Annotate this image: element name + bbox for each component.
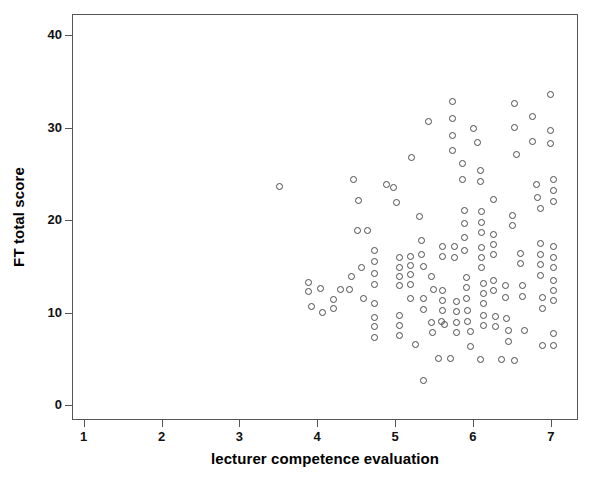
y-tick-label-0: 0 — [30, 397, 62, 412]
data-point — [319, 309, 326, 316]
data-point — [420, 306, 427, 313]
data-point — [317, 285, 324, 292]
data-point — [550, 342, 557, 349]
data-point — [502, 282, 509, 289]
data-point — [449, 147, 456, 154]
data-point — [461, 247, 468, 254]
data-point — [407, 253, 414, 260]
data-point — [412, 341, 419, 348]
data-point — [464, 318, 471, 325]
data-point — [550, 187, 557, 194]
x-tick-label-3: 3 — [227, 429, 251, 444]
data-point — [505, 327, 512, 334]
data-point — [346, 286, 353, 293]
data-point — [539, 342, 546, 349]
data-point — [478, 254, 485, 261]
data-point — [451, 254, 458, 261]
data-point — [350, 176, 357, 183]
data-point — [539, 294, 546, 301]
data-point — [420, 263, 427, 270]
data-point — [447, 355, 454, 362]
data-point — [470, 125, 477, 132]
data-point — [478, 244, 485, 251]
data-point — [467, 328, 474, 335]
data-point — [371, 247, 378, 254]
y-tick-20 — [65, 220, 72, 221]
data-point — [439, 297, 446, 304]
data-point — [459, 176, 466, 183]
data-point — [478, 208, 485, 215]
data-point — [547, 91, 554, 98]
data-point — [537, 251, 544, 258]
data-point — [348, 273, 355, 280]
data-point — [463, 284, 470, 291]
data-point — [435, 355, 442, 362]
data-point — [480, 312, 487, 319]
x-tick-2 — [162, 420, 163, 427]
data-point — [478, 219, 485, 226]
plot-area — [72, 14, 578, 420]
data-point — [463, 295, 470, 302]
data-point — [441, 321, 448, 328]
data-point — [416, 213, 423, 220]
data-point — [478, 264, 485, 271]
data-point — [511, 100, 518, 107]
x-tick-6 — [473, 420, 474, 427]
data-point — [430, 286, 437, 293]
data-point — [396, 264, 403, 271]
scatter-plot-figure: FT total score 010203040 1234567 lecture… — [0, 0, 592, 481]
data-point — [354, 227, 361, 234]
data-point — [407, 295, 414, 302]
y-tick-30 — [65, 128, 72, 129]
data-point — [393, 199, 400, 206]
data-point — [358, 264, 365, 271]
data-point — [533, 181, 540, 188]
data-point — [371, 300, 378, 307]
data-point — [420, 295, 427, 302]
x-tick-5 — [395, 420, 396, 427]
data-point — [396, 282, 403, 289]
data-point — [453, 319, 460, 326]
data-point — [474, 139, 481, 146]
data-point — [537, 261, 544, 268]
x-tick-1 — [84, 420, 85, 427]
data-point — [480, 322, 487, 329]
data-point — [463, 274, 470, 281]
data-point — [509, 212, 516, 219]
y-tick-label-10: 10 — [30, 305, 62, 320]
data-point — [371, 314, 378, 321]
data-point — [529, 138, 536, 145]
data-point — [459, 160, 466, 167]
data-point — [550, 330, 557, 337]
data-point — [467, 343, 474, 350]
data-point — [407, 262, 414, 269]
data-point — [478, 229, 485, 236]
data-point — [550, 176, 557, 183]
x-tick-label-6: 6 — [461, 429, 485, 444]
x-tick-7 — [551, 420, 552, 427]
y-axis-title: FT total score — [8, 14, 30, 420]
data-point — [461, 207, 468, 214]
data-point — [539, 305, 546, 312]
data-point — [550, 264, 557, 271]
data-point — [418, 237, 425, 244]
data-point — [451, 243, 458, 250]
data-point — [371, 323, 378, 330]
data-point — [509, 222, 516, 229]
data-point — [477, 167, 484, 174]
data-point — [490, 287, 497, 294]
data-point — [480, 300, 487, 307]
data-point — [439, 307, 446, 314]
data-point — [330, 296, 337, 303]
data-point — [305, 279, 312, 286]
data-point — [308, 303, 315, 310]
data-point — [383, 181, 390, 188]
y-tick-10 — [65, 313, 72, 314]
data-point — [461, 234, 468, 241]
data-point — [305, 288, 312, 295]
data-point — [371, 281, 378, 288]
data-point — [396, 273, 403, 280]
data-point — [511, 357, 518, 364]
data-point — [490, 277, 497, 284]
data-point — [330, 305, 337, 312]
